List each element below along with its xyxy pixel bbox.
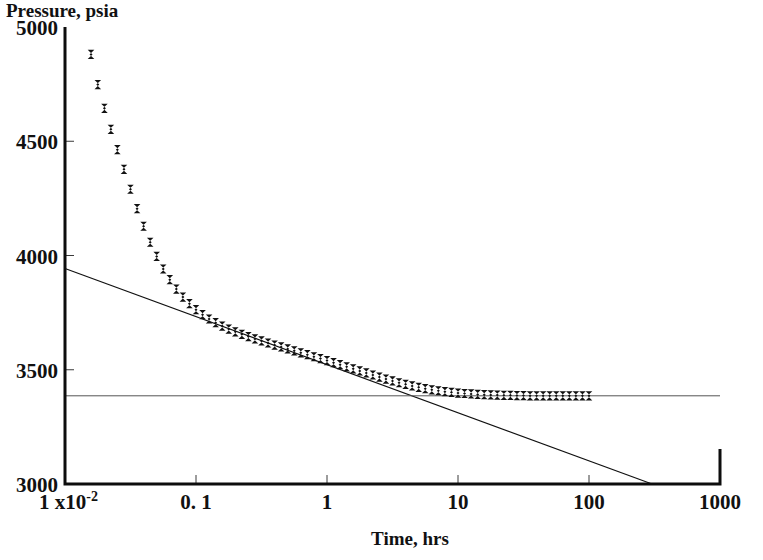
data-point-marker bbox=[435, 386, 442, 395]
data-point-marker bbox=[160, 264, 167, 273]
data-point-marker bbox=[389, 376, 396, 385]
data-point-marker bbox=[415, 383, 422, 392]
x-tick-label: 10 bbox=[448, 490, 469, 514]
data-point-marker bbox=[494, 391, 501, 400]
data-point-marker bbox=[481, 390, 488, 399]
data-point-marker bbox=[127, 185, 134, 194]
axis-frame bbox=[65, 27, 720, 484]
data-point-marker bbox=[422, 384, 429, 393]
data-point-marker bbox=[134, 204, 141, 213]
data-point-marker bbox=[409, 381, 416, 390]
x-tick-label: 0. 1 bbox=[180, 490, 212, 514]
data-point-marker bbox=[343, 362, 350, 371]
data-point-markers bbox=[88, 50, 593, 401]
data-point-marker bbox=[468, 389, 475, 398]
data-point-marker bbox=[180, 292, 187, 301]
x-axis-tick-labels: 1 x10-20. 11101001000 bbox=[39, 489, 741, 514]
data-point-marker bbox=[363, 368, 370, 377]
x-tick-label: 100 bbox=[573, 490, 605, 514]
data-point-marker bbox=[219, 322, 226, 331]
data-point-marker bbox=[350, 364, 357, 373]
data-point-marker bbox=[153, 252, 160, 261]
data-point-marker bbox=[147, 238, 154, 247]
x-tick-label: 1000 bbox=[699, 490, 741, 514]
data-point-marker bbox=[396, 378, 403, 387]
y-tick-label: 4500 bbox=[16, 130, 58, 154]
semilog-straight-line bbox=[65, 269, 652, 484]
data-point-marker bbox=[402, 380, 409, 389]
y-tick-label: 4000 bbox=[16, 245, 58, 269]
data-point-marker bbox=[95, 80, 102, 89]
data-point-marker bbox=[88, 50, 95, 59]
x-axis-title: Time, hrs bbox=[371, 528, 449, 549]
data-point-marker bbox=[193, 305, 200, 314]
data-point-marker bbox=[487, 390, 494, 399]
data-point-marker bbox=[265, 338, 272, 347]
data-point-marker bbox=[173, 284, 180, 293]
pressure-buildup-chart: Pressure, psia 50004500400035003000 1 x1… bbox=[0, 0, 763, 560]
y-axis-tick-labels: 50004500400035003000 bbox=[16, 16, 58, 497]
data-point-marker bbox=[167, 275, 174, 284]
data-point-marker bbox=[474, 390, 481, 399]
data-point-marker bbox=[101, 104, 108, 113]
data-point-marker bbox=[442, 387, 449, 396]
data-point-marker bbox=[383, 375, 390, 384]
data-point-marker bbox=[429, 385, 436, 394]
chart-canvas: Pressure, psia 50004500400035003000 1 x1… bbox=[0, 0, 763, 560]
data-point-marker bbox=[186, 299, 193, 308]
y-tick-label: 5000 bbox=[16, 16, 58, 40]
x-tick-label: 1 bbox=[322, 490, 333, 514]
data-point-marker bbox=[370, 370, 377, 379]
data-point-marker bbox=[337, 360, 344, 369]
data-point-marker bbox=[356, 366, 363, 375]
annotation-lines bbox=[65, 269, 720, 484]
data-point-marker bbox=[140, 222, 147, 231]
data-point-marker bbox=[114, 145, 121, 154]
data-point-marker bbox=[108, 125, 115, 134]
x-tick-label: 1 x10-2 bbox=[39, 489, 98, 514]
data-point-marker bbox=[121, 165, 128, 174]
y-tick-label: 3500 bbox=[16, 359, 58, 383]
data-point-marker bbox=[311, 352, 318, 361]
data-point-marker bbox=[376, 372, 383, 381]
data-point-marker bbox=[461, 389, 468, 398]
